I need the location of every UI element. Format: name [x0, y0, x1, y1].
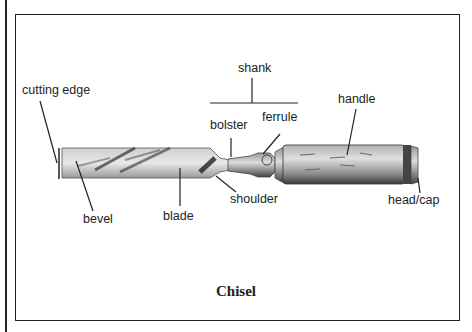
label-handle: handle [338, 92, 376, 106]
label-cutting-edge: cutting edge [22, 83, 90, 97]
label-ferrule: ferrule [262, 110, 297, 124]
label-bolster: bolster [210, 118, 248, 132]
label-bevel: bevel [83, 212, 113, 226]
label-blade: blade [163, 209, 194, 223]
label-shoulder: shoulder [230, 192, 278, 206]
figure-caption: Chisel [0, 283, 472, 300]
label-shank: shank [238, 61, 271, 75]
bolster-ferrule-shape [228, 148, 285, 182]
handle-shape [283, 145, 418, 184]
blade-shape [59, 148, 230, 179]
label-head-cap: head/cap [388, 193, 439, 207]
